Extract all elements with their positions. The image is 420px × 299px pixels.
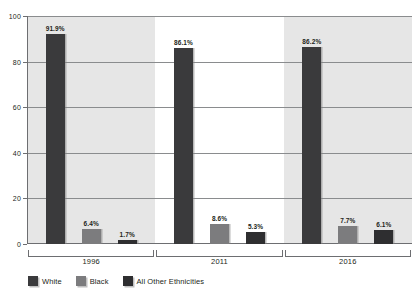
bar-white-2011[interactable]: 86.1% xyxy=(174,48,193,244)
bar-chart: 100 80 60 40 20 0 91.9% 6.4% xyxy=(0,0,420,299)
legend-swatch-icon xyxy=(28,276,38,286)
bar-white-2016[interactable]: 86.2% xyxy=(302,47,321,244)
x-group-bracket-2011: 2011 xyxy=(155,250,283,266)
bar-slot: 86.2% xyxy=(302,16,321,244)
y-axis-label-0: 0 xyxy=(17,241,21,248)
bar-value-label: 5.3% xyxy=(248,223,263,230)
y-axis-label-40: 40 xyxy=(13,149,21,156)
bar-slot: 5.3% xyxy=(246,16,265,244)
bar-black-1996[interactable]: 6.4% xyxy=(82,229,101,244)
bar-black-2011[interactable]: 8.6% xyxy=(210,224,229,244)
bar-value-label: 7.7% xyxy=(340,217,355,224)
x-group-label-1996: 1996 xyxy=(77,257,105,266)
legend-label-white: White xyxy=(42,277,62,286)
bar-slot: 7.7% xyxy=(338,16,357,244)
bar-slot: 6.4% xyxy=(82,16,101,244)
legend-swatch-icon xyxy=(123,276,133,286)
legend-label-black: Black xyxy=(90,277,109,286)
bracket-tick-right xyxy=(410,250,411,256)
x-group-label-2011: 2011 xyxy=(206,257,233,266)
x-axis-group-labels: 1996 2011 2016 xyxy=(27,250,412,266)
chart-legend: White Black All Other Ethnicities xyxy=(28,276,204,286)
bar-groups: 91.9% 6.4% 1.7% 86.1% xyxy=(27,16,412,244)
bar-slot: 6.1% xyxy=(374,16,393,244)
y-axis-label-60: 60 xyxy=(13,104,21,111)
x-group-bracket-2016: 2016 xyxy=(284,250,412,266)
bar-value-label: 86.1% xyxy=(174,39,193,46)
plot-area: 100 80 60 40 20 0 91.9% 6.4% xyxy=(27,16,412,244)
bar-group-1996: 91.9% 6.4% 1.7% xyxy=(27,16,155,244)
bar-all-other-1996[interactable]: 1.7% xyxy=(118,240,137,244)
bar-slot: 1.7% xyxy=(118,16,137,244)
bar-value-label: 86.2% xyxy=(302,38,321,45)
bar-value-label: 8.6% xyxy=(212,215,227,222)
bar-all-other-2016[interactable]: 6.1% xyxy=(374,230,393,244)
legend-label-all-other-ethnicities: All Other Ethnicities xyxy=(137,277,205,286)
bar-slot: 86.1% xyxy=(174,16,193,244)
y-axis-label-100: 100 xyxy=(9,13,21,20)
bracket-tick-right xyxy=(282,250,283,256)
bar-black-2016[interactable]: 7.7% xyxy=(338,226,357,244)
bar-value-label: 6.1% xyxy=(376,221,391,228)
x-group-bracket-1996: 1996 xyxy=(27,250,155,266)
y-tick-0 xyxy=(23,244,27,245)
bar-group-2016: 86.2% 7.7% 6.1% xyxy=(284,16,412,244)
legend-item-white[interactable]: White xyxy=(28,276,62,286)
bar-group-2011: 86.1% 8.6% 5.3% xyxy=(155,16,283,244)
y-axis-label-80: 80 xyxy=(13,58,21,65)
bar-value-label: 91.9% xyxy=(46,25,65,32)
legend-swatch-icon xyxy=(76,276,86,286)
bar-value-label: 6.4% xyxy=(84,220,99,227)
bar-slot: 8.6% xyxy=(210,16,229,244)
bar-white-1996[interactable]: 91.9% xyxy=(46,34,65,244)
bar-all-other-2011[interactable]: 5.3% xyxy=(246,232,265,244)
y-axis-label-20: 20 xyxy=(13,195,21,202)
x-group-label-2016: 2016 xyxy=(334,257,362,266)
bracket-tick-right xyxy=(153,250,154,256)
legend-item-black[interactable]: Black xyxy=(76,276,109,286)
bar-slot: 91.9% xyxy=(46,16,65,244)
bar-value-label: 1.7% xyxy=(120,231,135,238)
legend-item-all-other-ethnicities[interactable]: All Other Ethnicities xyxy=(123,276,205,286)
